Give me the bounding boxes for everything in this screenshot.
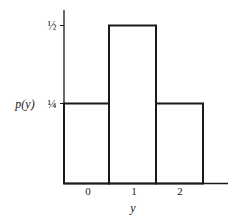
xtick-0-label: 0	[85, 185, 91, 197]
xtick-1-label: 1	[131, 185, 137, 197]
bar-y0	[64, 104, 109, 184]
bar-y1	[109, 26, 156, 184]
ytick-quarter-label: ¼	[48, 97, 57, 111]
ylabel: p(y)	[14, 97, 34, 111]
probability-histogram: ½ ¼ p(y) 0 1 2 y	[0, 0, 239, 223]
xtick-2-label: 2	[177, 185, 183, 197]
ytick-half-label: ½	[48, 19, 57, 33]
xlabel: y	[129, 201, 136, 215]
bar-y2	[156, 104, 203, 184]
